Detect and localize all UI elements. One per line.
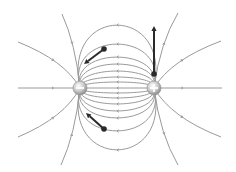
field-line-open xyxy=(18,88,80,137)
sample-point-dot xyxy=(101,46,107,52)
field-line-open xyxy=(154,13,178,88)
field-line-open xyxy=(62,14,80,88)
field-line xyxy=(78,88,156,150)
negative-charge xyxy=(73,81,87,95)
sample-point-dot xyxy=(101,126,107,132)
field-line-open xyxy=(61,88,80,165)
dipole-field-diagram: Electric field lines of an electric dipo… xyxy=(0,0,236,172)
field-canvas xyxy=(0,0,236,172)
field-line-open xyxy=(154,88,178,165)
field-line xyxy=(79,64,154,88)
field-line xyxy=(80,82,154,88)
positive-charge xyxy=(147,81,161,95)
field-line xyxy=(79,88,156,131)
field-line-open xyxy=(154,88,221,137)
field-lines xyxy=(18,13,222,165)
field-line-open xyxy=(18,42,80,88)
field-line-open xyxy=(154,41,221,88)
arrowhead-icon xyxy=(151,26,156,31)
sample-point-dot xyxy=(151,71,157,77)
field-line xyxy=(80,88,154,93)
